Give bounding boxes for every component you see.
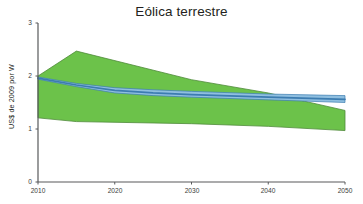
chart-container: Eólica terrestre US$ de 2009 por W 3 2 1… xyxy=(0,0,363,204)
x-tick-2010: 2010 xyxy=(21,187,55,194)
y-tick-2: 2 xyxy=(18,72,32,79)
x-tick-2020: 2020 xyxy=(98,187,132,194)
green-range-band xyxy=(38,51,345,131)
x-tick-2050: 2050 xyxy=(328,187,362,194)
y-tick-0: 0 xyxy=(18,178,32,185)
x-tick-2030: 2030 xyxy=(175,187,209,194)
y-tick-1: 1 xyxy=(18,125,32,132)
y-tick-3: 3 xyxy=(18,19,32,26)
plot-area xyxy=(0,0,363,204)
x-tick-2040: 2040 xyxy=(251,187,285,194)
